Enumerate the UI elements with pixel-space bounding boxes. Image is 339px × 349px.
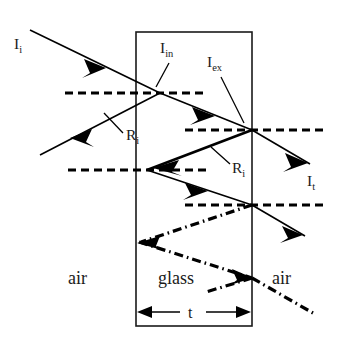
ray-diagram-canvas: Ii Iin Iex Ri Ri It air glass air t bbox=[0, 0, 339, 349]
exit-ray-second bbox=[252, 205, 305, 236]
label-incident-intensity: Ii bbox=[14, 35, 22, 55]
label-thickness: t bbox=[188, 304, 193, 321]
exit-ray-first bbox=[252, 130, 310, 164]
label-transmitted-intensity: It bbox=[307, 172, 315, 192]
thickness-label-backdrop bbox=[180, 303, 206, 321]
first-reflected-ray-arrowhead bbox=[70, 129, 94, 147]
leader-line-first-reflect-label bbox=[104, 113, 123, 133]
label-medium-air-right: air bbox=[272, 268, 291, 288]
optics-ray-diagram: Ii Iin Iex Ri Ri It air glass air t bbox=[0, 0, 339, 349]
label-medium-glass: glass bbox=[158, 268, 194, 288]
label-medium-air-left: air bbox=[68, 268, 87, 288]
